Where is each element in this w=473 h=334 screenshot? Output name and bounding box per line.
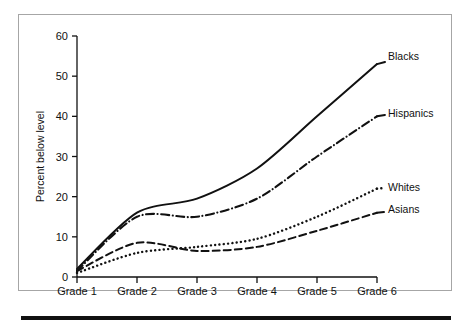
x-axis: Grade 1Grade 2Grade 3Grade 4Grade 5Grade… bbox=[57, 277, 397, 297]
bottom-horizontal-rule bbox=[21, 316, 451, 320]
series-label-hispanics: Hispanics bbox=[388, 107, 434, 119]
series-line-blacks bbox=[77, 64, 377, 269]
x-tick-label: Grade 5 bbox=[297, 285, 337, 297]
x-tick-label: Grade 4 bbox=[237, 285, 277, 297]
series-line-whites bbox=[77, 189, 377, 273]
x-tick-label: Grade 1 bbox=[57, 285, 97, 297]
series-leader-hispanics bbox=[377, 115, 385, 116]
y-axis-title: Percent below level bbox=[34, 111, 46, 202]
figure-container: 0102030405060 Grade 1Grade 2Grade 3Grade… bbox=[0, 0, 473, 334]
y-tick-label: 40 bbox=[56, 110, 68, 122]
series-labels: BlacksHispanicsWhitesAsians bbox=[388, 50, 434, 215]
x-tick-label: Grade 2 bbox=[117, 285, 157, 297]
y-tick-label: 30 bbox=[56, 151, 68, 163]
series-leader-whites bbox=[377, 188, 385, 189]
x-tick-label: Grade 6 bbox=[357, 285, 397, 297]
series-line-asians bbox=[77, 213, 377, 271]
y-axis: 0102030405060 bbox=[56, 30, 77, 283]
y-tick-label: 10 bbox=[56, 231, 68, 243]
y-tick-label: 60 bbox=[56, 30, 68, 42]
y-tick-label: 50 bbox=[56, 70, 68, 82]
line-chart: 0102030405060 Grade 1Grade 2Grade 3Grade… bbox=[0, 0, 473, 334]
series-label-asians: Asians bbox=[388, 203, 420, 215]
x-tick-label: Grade 3 bbox=[177, 285, 217, 297]
y-tick-label: 0 bbox=[62, 271, 68, 283]
series-lines bbox=[77, 62, 385, 273]
series-leader-blacks bbox=[377, 62, 385, 64]
series-label-whites: Whites bbox=[388, 181, 420, 193]
y-tick-label: 20 bbox=[56, 191, 68, 203]
series-label-blacks: Blacks bbox=[388, 50, 419, 62]
series-leader-asians bbox=[377, 212, 385, 213]
